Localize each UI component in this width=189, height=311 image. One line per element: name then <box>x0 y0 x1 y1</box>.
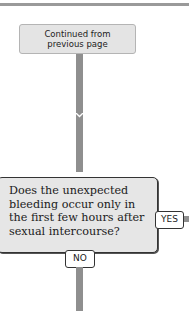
no-branch-connector <box>76 267 83 311</box>
yes-branch-label: YES <box>155 211 184 229</box>
question-line-2: bleeding occur only in <box>9 198 157 212</box>
question-line-1: Does the unexpected <box>9 184 157 198</box>
start-node-line-1: Continued from <box>20 29 135 39</box>
start-node-line-2: previous page <box>20 39 135 49</box>
question-line-4: sexual intercourse? <box>9 225 157 239</box>
question-line-3: the first few hours after <box>9 211 157 225</box>
decision-node-question: Does the unexpected bleeding occur only … <box>0 177 158 253</box>
page-top-rule <box>0 3 189 6</box>
arrow-chevron-icon <box>76 113 83 118</box>
no-branch-label: NO <box>65 250 95 268</box>
continued-from-previous-page-node: Continued from previous page <box>19 24 136 54</box>
